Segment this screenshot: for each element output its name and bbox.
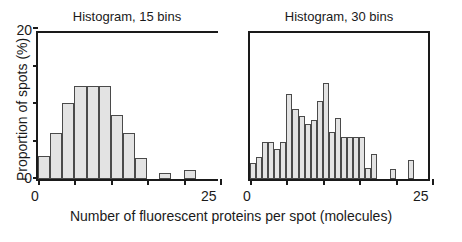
y-tick-label-max: 20 (0, 22, 32, 38)
y-tick (33, 102, 38, 104)
histogram-bar (74, 86, 86, 179)
histogram-bar (62, 103, 74, 179)
x-tick (184, 179, 186, 185)
x-axis-label: Number of fluorescent proteins per spot … (0, 208, 462, 224)
plot-area-right (248, 31, 430, 181)
x-tick-label-min-left: 0 (31, 188, 39, 204)
x-tick (220, 179, 222, 185)
histogram-bar (123, 133, 135, 180)
x-tick-label-max-right: 25 (413, 188, 429, 204)
x-tick (396, 179, 398, 185)
y-axis-label: Proportion of spots (%) (14, 38, 30, 181)
x-tick (359, 179, 361, 185)
histogram-bar (135, 158, 147, 179)
histogram-bar (371, 154, 377, 179)
x-tick (111, 179, 113, 185)
y-tick (33, 140, 38, 142)
histogram-bar (408, 160, 414, 179)
x-tick (250, 179, 252, 185)
panel-title-left: Histogram, 15 bins (36, 9, 218, 24)
x-tick (38, 179, 40, 185)
histogram-bar (87, 86, 99, 179)
x-tick-label-max-left: 25 (201, 188, 217, 204)
figure-histograms: Histogram, 15 bins Histogram, 30 bins 20… (0, 0, 462, 242)
x-tick (323, 179, 325, 185)
plot-area-left (36, 31, 218, 181)
x-tick-label-min-right: 0 (243, 188, 251, 204)
x-tick (432, 179, 434, 185)
histogram-bar (390, 169, 396, 180)
bar-series-right (250, 33, 428, 179)
panel-title-right: Histogram, 30 bins (248, 9, 430, 24)
histogram-bar (184, 170, 196, 179)
histogram-bar (38, 156, 50, 179)
x-tick (147, 179, 149, 185)
x-tick (286, 179, 288, 185)
y-tick (33, 65, 38, 67)
histogram-bar (50, 133, 62, 180)
histogram-bar (99, 86, 111, 179)
bar-series-left (38, 33, 218, 179)
histogram-bar (111, 115, 123, 179)
x-tick (74, 179, 76, 185)
histogram-bar (159, 173, 171, 179)
y-tick (33, 27, 38, 29)
